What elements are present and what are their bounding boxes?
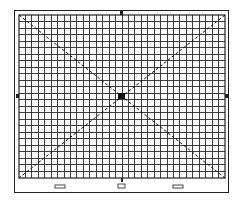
right-middle-marker [225, 94, 228, 98]
center-symbol-indicator [118, 184, 125, 188]
right-slot-indicator [173, 185, 183, 188]
top-center-marker [120, 11, 123, 15]
left-middle-marker [16, 94, 19, 98]
test-pattern-diagram [0, 0, 244, 203]
center-marker [118, 93, 125, 99]
left-slot-indicator [55, 185, 65, 188]
bottom-center-tick [121, 178, 123, 182]
